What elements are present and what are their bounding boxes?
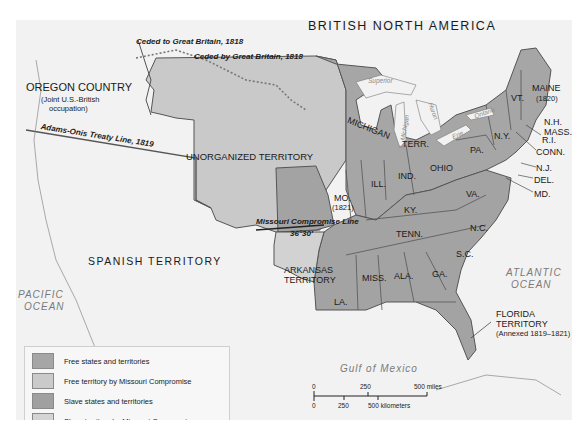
legend-swatch-slave-territory [32, 413, 54, 420]
label-terr: TERR. [402, 140, 429, 149]
legend-item-free-territory: Free territory by Missouri Compromise [32, 373, 192, 389]
scale-bar: 0 250 500 miles 0 250 500 kilometers [312, 383, 452, 413]
label-florida-note: (Annexed 1819–1821) [496, 330, 570, 338]
label-state-conn: CONN. [536, 148, 565, 157]
legend-swatch-free-territory [32, 373, 54, 389]
label-state-vt: VT. [511, 94, 524, 103]
map-missouri-compromise-1820: BRITISH NORTH AMERICA OREGON COUNTRY (Jo… [16, 20, 572, 420]
label-state-nh: N.H. [544, 118, 562, 127]
label-spanish-territory: SPANISH TERRITORY [88, 256, 222, 267]
label-state-maine: MAINE [532, 84, 561, 93]
label-arkansas-1: ARKANSAS [284, 266, 333, 275]
scale-km-250: 250 [338, 402, 349, 409]
label-state-ri: R.I. [542, 136, 556, 145]
label-state-tenn: TENN. [396, 230, 423, 239]
label-state-sc: S.C. [456, 250, 474, 259]
label-state-miss: MISS. [362, 274, 387, 283]
label-state-ill: ILL. [371, 180, 386, 189]
nj-pointer [521, 163, 536, 167]
label-state-la: LA. [334, 298, 348, 307]
scale-miles-250: 250 [360, 383, 371, 390]
label-state-ky: KY. [404, 206, 417, 215]
label-atlantic-2: OCEAN [511, 280, 552, 290]
legend-item-free-states: Free states and territories [32, 353, 149, 369]
legend-label: Free states and territories [64, 357, 149, 366]
legend-swatch-free-states [32, 353, 54, 369]
legend-swatch-slave-states [32, 393, 54, 409]
legend-label: Slave states and territories [64, 397, 153, 406]
label-florida-1: FLORIDA [496, 310, 535, 319]
label-oregon-country: OREGON COUNTRY [26, 82, 132, 93]
label-state-del: DEL. [534, 176, 554, 185]
cuba-outline [436, 375, 561, 395]
label-oregon-note-1: (Joint U.S.-British [41, 96, 99, 104]
label-state-mo: MO. [334, 194, 351, 203]
label-state-pa: PA. [470, 146, 484, 155]
label-british-north-america: BRITISH NORTH AMERICA [308, 20, 496, 33]
label-missouri-compromise-line: Missouri Compromise Line [256, 218, 359, 226]
scale-km-500: 500 kilometers [368, 402, 410, 409]
label-state-ind: IND. [398, 172, 416, 181]
scale-miles-500: 500 miles [414, 383, 442, 390]
label-ceded-by-britain: Ceded by Great Britain, 1818 [194, 53, 303, 61]
label-mo-year: (1821) [332, 204, 354, 212]
florida-pointer [471, 322, 491, 338]
label-maine-year: (1820) [536, 95, 558, 103]
label-gulf-of-mexico: Gulf of Mexico [340, 364, 418, 374]
label-parallel-36-30: 36°30′ [290, 230, 313, 238]
label-state-nc: N.C. [470, 224, 488, 233]
scale-km-0: 0 [312, 402, 316, 409]
label-lake-superior: Superior [368, 78, 393, 85]
legend-item-slave-states: Slave states and territories [32, 393, 153, 409]
label-ceded-to-britain: Ceded to Great Britain, 1818 [136, 38, 243, 46]
legend-label: Slave territory by Missouri Compromise [64, 417, 195, 421]
label-state-nj: N.J. [536, 164, 552, 173]
legend-item-slave-territory: Slave territory by Missouri Compromise [32, 413, 195, 420]
legend-label: Free territory by Missouri Compromise [64, 377, 192, 386]
del-pointer [518, 175, 533, 178]
label-state-ny: N.Y. [494, 132, 510, 141]
scale-miles-0: 0 [312, 383, 316, 390]
label-state-ala: ALA. [394, 272, 414, 281]
label-oregon-note-2: occupation) [49, 105, 88, 113]
label-state-md: MD. [534, 190, 551, 199]
label-atlantic-1: ATLANTIC [506, 268, 562, 278]
label-arkansas-2: TERRITORY [284, 276, 336, 285]
label-state-ohio: OHIO [430, 164, 453, 173]
label-state-ga: GA. [432, 270, 448, 279]
label-pacific-1: PACIFIC [18, 290, 64, 300]
label-florida-2: TERRITORY [496, 320, 548, 329]
label-state-va: VA. [466, 190, 480, 199]
map-legend: Free states and territories Free territo… [24, 346, 230, 420]
label-pacific-2: OCEAN [24, 302, 65, 312]
label-unorganized-territory: UNORGANIZED TERRITORY [186, 152, 313, 162]
